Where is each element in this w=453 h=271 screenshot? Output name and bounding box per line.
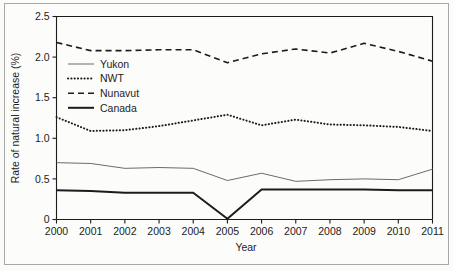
x-tick-label: 2007 (284, 225, 308, 237)
legend-label-nwt: NWT (100, 72, 124, 84)
x-tick-label: 2006 (250, 225, 274, 237)
x-tick-label: 2003 (147, 225, 171, 237)
y-axis-title: Rate of natural increase (%) (9, 53, 21, 184)
y-tick-label: 2.0 (35, 51, 50, 63)
x-tick-label: 2010 (387, 225, 411, 237)
series-line-canada (57, 189, 433, 218)
legend-label-canada: Canada (100, 102, 137, 114)
x-tick-label: 2002 (113, 225, 137, 237)
legend-label-nunavut: Nunavut (100, 87, 139, 99)
x-tick-label: 2008 (318, 225, 342, 237)
y-tick-label: 2.5 (35, 10, 50, 22)
series-line-yukon (57, 163, 433, 182)
y-axis-ticks: 00.51.01.52.02.5 (35, 10, 57, 225)
y-tick-label: 1.0 (35, 132, 50, 144)
x-tick-label: 2011 (421, 225, 444, 237)
x-tick-label: 2004 (182, 225, 206, 237)
x-axis-title: Year (235, 241, 257, 253)
x-tick-label: 2001 (79, 225, 103, 237)
chart-legend: YukonNWTNunavutCanada (68, 58, 139, 114)
y-tick-label: 1.5 (35, 91, 50, 103)
x-tick-label: 2000 (45, 225, 69, 237)
legend-label-yukon: Yukon (100, 58, 129, 70)
y-tick-label: 0 (44, 213, 50, 225)
x-tick-label: 2005 (216, 225, 240, 237)
figure-container: 00.51.01.52.02.5 20002001200220032004200… (0, 0, 453, 271)
line-chart: 00.51.01.52.02.5 20002001200220032004200… (0, 0, 453, 271)
y-tick-label: 0.5 (35, 173, 50, 185)
x-tick-label: 2009 (352, 225, 376, 237)
x-axis-ticks: 2000200120022003200420052006200720082009… (45, 220, 444, 238)
series-line-nwt (57, 115, 433, 131)
